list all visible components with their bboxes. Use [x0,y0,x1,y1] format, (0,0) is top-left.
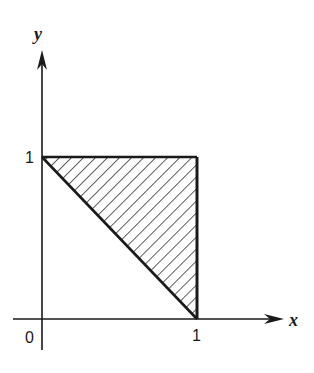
y-axis-label: y [32,24,43,44]
region-diagram: y x 1 0 1 [0,0,314,373]
x-tick-label-1: 1 [192,327,201,344]
origin-label: 0 [25,329,34,346]
y-tick-label-1: 1 [25,149,34,166]
x-axis-label: x [288,310,298,330]
